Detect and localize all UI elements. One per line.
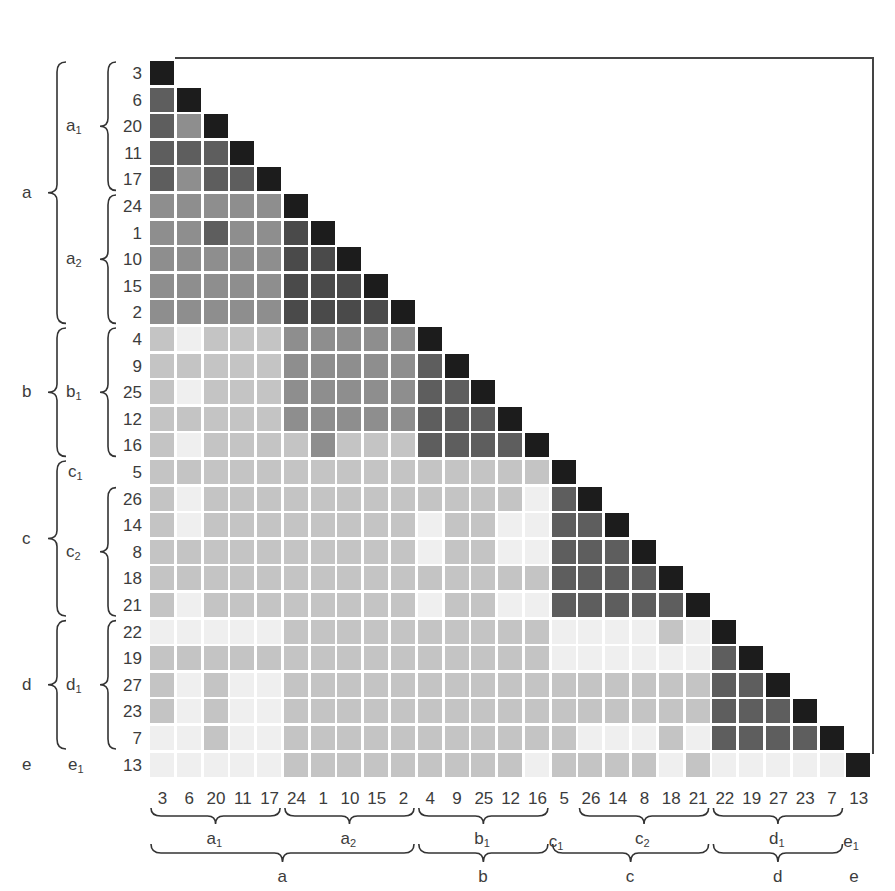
matrix-cell <box>391 327 415 351</box>
matrix-cell <box>204 354 228 378</box>
matrix-cell <box>177 380 201 404</box>
row-label: 7 <box>112 730 142 747</box>
column-group-label: b <box>478 868 487 885</box>
matrix-cell <box>712 673 736 697</box>
matrix-cell <box>632 753 656 777</box>
matrix-cell <box>311 673 335 697</box>
matrix-cell <box>257 194 281 218</box>
matrix-cell <box>471 460 495 484</box>
matrix-cell <box>552 513 576 537</box>
matrix-cell <box>337 566 361 590</box>
matrix-cell <box>364 566 388 590</box>
matrix-cell <box>498 433 522 457</box>
row-label: 27 <box>112 677 142 694</box>
matrix-cell <box>257 540 281 564</box>
matrix-cell <box>230 699 254 723</box>
matrix-cell <box>177 593 201 617</box>
matrix-cell <box>364 300 388 324</box>
matrix-cell <box>364 380 388 404</box>
column-group-brace <box>713 808 842 824</box>
matrix-cell <box>498 699 522 723</box>
matrix-cell <box>498 407 522 431</box>
matrix-cell <box>284 699 308 723</box>
column-label: 26 <box>577 790 604 807</box>
matrix-cell <box>445 433 469 457</box>
matrix-cell <box>552 699 576 723</box>
matrix-cell <box>793 726 817 750</box>
row-group-label: d <box>22 676 31 693</box>
matrix-cell <box>230 593 254 617</box>
matrix-cell <box>445 513 469 537</box>
matrix-cell <box>391 646 415 670</box>
row-label: 18 <box>112 570 142 587</box>
column-label: 18 <box>658 790 685 807</box>
matrix-cell <box>552 487 576 511</box>
row-label: 21 <box>112 597 142 614</box>
matrix-cell <box>391 753 415 777</box>
matrix-cell <box>150 699 174 723</box>
matrix-cell <box>498 566 522 590</box>
matrix-cell <box>230 274 254 298</box>
matrix-cell <box>498 540 522 564</box>
matrix-cell <box>204 726 228 750</box>
matrix-cell <box>177 114 201 138</box>
matrix-cell <box>525 673 549 697</box>
matrix-cell <box>364 327 388 351</box>
matrix-cell <box>471 487 495 511</box>
row-label: 2 <box>112 304 142 321</box>
row-label: 4 <box>112 331 142 348</box>
matrix-cell <box>739 699 763 723</box>
matrix-cell <box>150 327 174 351</box>
matrix-cell <box>230 753 254 777</box>
row-label: 22 <box>112 624 142 641</box>
matrix-cell <box>257 300 281 324</box>
matrix-cell <box>204 646 228 670</box>
column-label: 11 <box>229 790 256 807</box>
matrix-cell <box>230 673 254 697</box>
matrix-cell <box>257 274 281 298</box>
matrix-cell <box>659 726 683 750</box>
matrix-cell <box>471 699 495 723</box>
matrix-cell <box>177 327 201 351</box>
column-label: 12 <box>497 790 524 807</box>
matrix-cell <box>418 433 442 457</box>
matrix-cell <box>525 753 549 777</box>
column-group-brace <box>151 844 414 862</box>
matrix-cell <box>659 566 683 590</box>
row-label: 16 <box>112 437 142 454</box>
matrix-cell <box>337 726 361 750</box>
matrix-cell <box>230 566 254 590</box>
matrix-cell <box>150 354 174 378</box>
matrix-cell <box>364 620 388 644</box>
matrix-cell <box>525 699 549 723</box>
matrix-cell <box>150 646 174 670</box>
matrix-cell <box>150 540 174 564</box>
matrix-cell <box>391 540 415 564</box>
column-group-brace <box>579 808 708 824</box>
matrix-cell <box>793 753 817 777</box>
matrix-cell <box>418 593 442 617</box>
matrix-cell <box>686 646 710 670</box>
row-group-label: a <box>22 184 31 201</box>
matrix-cell <box>230 407 254 431</box>
matrix-cell <box>337 646 361 670</box>
matrix-cell <box>739 646 763 670</box>
matrix-cell <box>284 354 308 378</box>
matrix-cell <box>230 620 254 644</box>
matrix-cell <box>311 380 335 404</box>
matrix-cell <box>257 620 281 644</box>
matrix-cell <box>418 699 442 723</box>
matrix-cell <box>150 114 174 138</box>
matrix-cell <box>284 300 308 324</box>
matrix-cell <box>498 673 522 697</box>
matrix-cell <box>712 753 736 777</box>
matrix-cell <box>712 726 736 750</box>
matrix-cell <box>445 380 469 404</box>
matrix-cell <box>284 566 308 590</box>
matrix-cell <box>337 487 361 511</box>
column-label: 25 <box>470 790 497 807</box>
matrix-cell <box>418 407 442 431</box>
matrix-cell <box>257 487 281 511</box>
matrix-cell <box>284 380 308 404</box>
matrix-cell <box>150 194 174 218</box>
